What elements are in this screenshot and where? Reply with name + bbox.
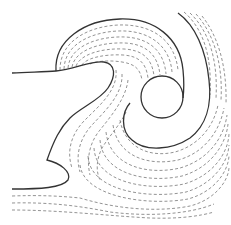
lower-streamlines <box>12 105 229 218</box>
upper-arc-streamlines <box>60 25 178 80</box>
swirl-boundary <box>124 13 210 148</box>
streamline-diagram <box>0 0 231 225</box>
diagram-canvas <box>0 0 231 225</box>
circle-obstacle <box>141 76 183 118</box>
solid-boundaries <box>12 13 210 189</box>
s-curve-boundary <box>12 62 114 189</box>
